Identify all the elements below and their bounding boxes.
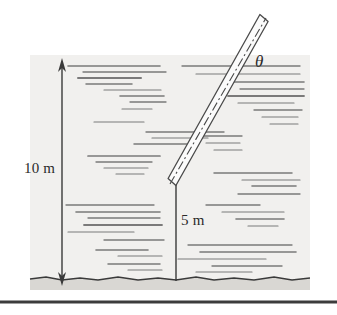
- submerged-length-label: 5 m: [181, 212, 205, 229]
- diagram-canvas: [0, 0, 337, 315]
- physics-diagram-figure: 10 m 5 m θ: [0, 0, 337, 315]
- depth-label: 10 m: [24, 160, 55, 177]
- angle-theta-label: θ: [255, 52, 264, 72]
